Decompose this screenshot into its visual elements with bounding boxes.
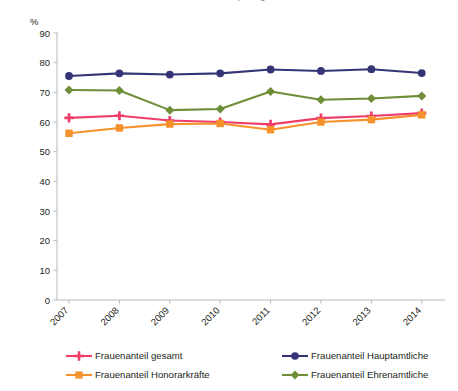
x-axis-tick-label: 2008 [98,305,121,328]
data-point-marker [316,95,325,104]
y-axis-tick-label: 30 [39,206,50,217]
data-point-marker [317,67,325,75]
data-point-marker [115,111,124,120]
legend-label-honorarkraefte: Frauenanteil Honorarkräfte [95,369,210,381]
y-axis-tick-label: 0 [45,295,50,306]
x-axis-tick-label: 2013 [350,305,373,328]
data-point-marker [266,87,275,96]
x-axis-tick-label: 2011 [250,305,272,327]
x-axis-tick-label: 2010 [199,305,222,328]
data-point-marker [65,85,74,94]
x-axis-tick-labels: 20072008200920102011201220132014 [48,305,423,328]
data-point-marker [64,113,73,122]
legend-label-ehrenamtliche: Frauenanteil Ehrenamtliche [311,369,428,381]
x-axis-tick-label: 2012 [300,305,323,328]
data-point-marker [216,120,223,127]
data-point-marker [165,106,174,115]
plot-area: 9080706050403020100 20072008200920102011… [0,0,458,345]
chart-legend: Frauenanteil gesamt Frauenanteil Honorar… [60,345,458,391]
data-point-marker [418,69,426,77]
legend-item-gesamt[interactable]: Frauenanteil gesamt [66,347,182,365]
y-axis-tick-label: 20 [39,235,50,246]
data-point-marker [115,69,123,77]
legend-item-honorarkraefte[interactable]: Frauenanteil Honorarkräfte [66,366,210,384]
data-point-marker [65,130,72,137]
legend-item-ehrenamtliche[interactable]: Frauenanteil Ehrenamtliche [282,366,428,384]
data-point-marker [367,65,375,73]
legend-swatch-ehrenamtliche [282,368,308,382]
data-point-marker [216,104,225,113]
series-4 [65,85,427,114]
data-point-marker [216,69,224,77]
data-point-marker [115,86,124,95]
data-point-marker [267,126,274,133]
chart-container: Frauenanteile in den Sportorganisationen… [0,0,458,391]
legend-swatch-hauptamtliche [282,349,308,363]
data-point-marker [166,71,174,79]
y-axis-tick-label: 40 [39,176,50,187]
legend-swatch-gesamt [66,349,92,363]
legend-item-hauptamtliche[interactable]: Frauenanteil Hauptamtliche [282,347,428,365]
legend-swatch-honorarkraefte [66,368,92,382]
data-point-marker [417,91,426,100]
y-axis-tick-label: 90 [39,28,50,39]
x-axis-tick-label: 2007 [48,305,71,328]
legend-label-hauptamtliche: Frauenanteil Hauptamtliche [311,350,428,362]
y-axis-tick-label: 60 [39,117,50,128]
data-point-marker [367,94,376,103]
y-axis-tick-label: 70 [39,87,50,98]
data-point-marker [418,111,425,118]
y-axis-tick-label: 50 [39,146,50,157]
legend-label-gesamt: Frauenanteil gesamt [95,350,182,362]
data-point-marker [368,116,375,123]
x-axis-tick-label: 2014 [400,305,423,328]
y-axis-tick-label: 80 [39,57,50,68]
data-point-marker [116,124,123,131]
series-3 [65,65,426,80]
data-point-marker [166,120,173,127]
data-point-marker [317,118,324,125]
series-layer [64,65,426,137]
y-axis-tick-label: 10 [39,265,50,276]
data-point-marker [267,66,275,74]
x-axis-tick-label: 2009 [148,305,171,328]
data-point-marker [65,72,73,80]
